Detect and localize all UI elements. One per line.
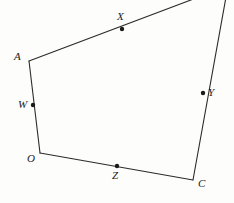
edge-O-A [29,61,40,153]
vertex-label-O: O [27,153,35,164]
point-dot-Y [201,91,205,95]
point-dot-X [120,27,124,31]
vertex-label-C: C [198,178,205,189]
point-label-W: W [18,99,27,110]
point-markers [31,27,205,168]
point-label-Z: Z [112,170,118,181]
geometry-figure: A O C X Y Z W [0,0,234,203]
point-label-X: X [117,11,124,22]
point-dot-Z [115,164,119,168]
vertex-label-A: A [14,51,21,62]
point-dot-W [31,103,35,107]
edge-A-T [29,0,228,61]
polygon-edges [29,0,228,180]
point-label-Y: Y [208,87,214,98]
